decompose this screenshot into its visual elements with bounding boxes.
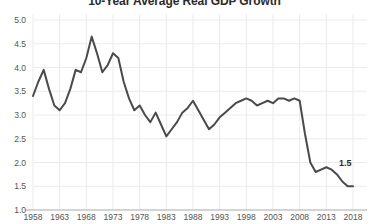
x-axis-tick-label: 1988 [178, 213, 208, 222]
x-axis-tick-label: 2003 [258, 213, 288, 222]
x-axis: 1958196319681973197819831988199319982003… [0, 0, 369, 224]
x-axis-tick-label: 2013 [311, 213, 341, 222]
x-axis-tick-label: 1968 [71, 213, 101, 222]
chart-container: 10-Year Average Real GDP Growth 1.01.52.… [0, 0, 369, 224]
endpoint-value-label: 1.5 [339, 158, 352, 168]
x-axis-tick-label: 1963 [45, 213, 75, 222]
x-axis-tick-label: 2018 [338, 213, 368, 222]
x-axis-tick-label: 1998 [231, 213, 261, 222]
x-axis-tick-label: 1978 [125, 213, 155, 222]
x-axis-tick-label: 2008 [285, 213, 315, 222]
x-axis-tick-label: 1983 [151, 213, 181, 222]
x-axis-tick-label: 1973 [98, 213, 128, 222]
x-axis-tick-label: 1993 [205, 213, 235, 222]
x-axis-tick-label: 1958 [18, 213, 48, 222]
